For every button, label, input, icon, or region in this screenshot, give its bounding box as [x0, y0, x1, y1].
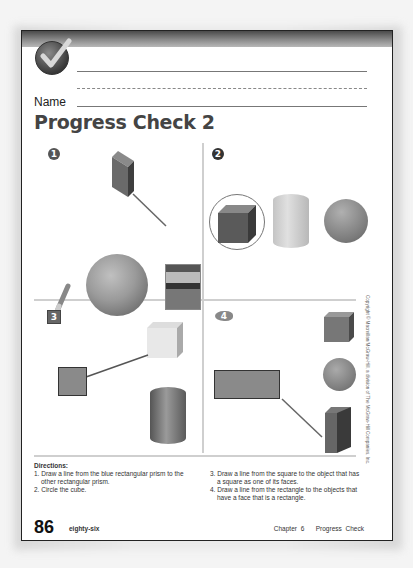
name-field[interactable]	[77, 106, 367, 107]
sphere-icon	[323, 358, 356, 391]
divider-vertical	[202, 143, 204, 453]
direction-2: 2. Circle the cube.	[34, 486, 184, 494]
direction-1b: other rectangular prism.	[34, 478, 184, 486]
direction-4a: 4. Draw a line from the rectangle to the…	[210, 486, 359, 494]
cube-icon	[218, 205, 256, 243]
footer-chapter: Chapter 6 Progress Check	[274, 525, 364, 532]
directions-col-1: 1. Draw a line from the blue rectangular…	[34, 470, 184, 494]
cube-icon	[324, 312, 354, 342]
cylinder-icon	[273, 194, 309, 248]
header-band	[22, 31, 392, 47]
write-line-top	[77, 71, 367, 72]
direction-4b: have a face that is a rectangle.	[210, 494, 359, 502]
cylinder-icon	[150, 387, 186, 444]
square-icon	[58, 367, 87, 396]
rectangular-prism-icon	[325, 407, 351, 453]
name-label: Name	[34, 95, 66, 109]
answer-line-1	[130, 191, 170, 231]
problem-1-badge: 1	[48, 148, 60, 160]
ball-icon	[86, 254, 148, 316]
crayon-icon	[52, 283, 74, 313]
page-number-words: eighty-six	[69, 525, 99, 532]
divider-bottom	[34, 455, 356, 457]
section-label: Progress Check	[316, 525, 364, 532]
problem-2-badge: 2	[212, 148, 224, 160]
problem-3-badge: 3	[47, 310, 61, 324]
crayon-box-icon	[165, 264, 201, 310]
answer-line-4	[280, 397, 324, 441]
page-title: Progress Check 2	[34, 111, 215, 133]
checkmark-icon	[35, 41, 69, 75]
direction-1a: 1. Draw a line from the blue rectangular…	[34, 470, 184, 478]
answer-line-3	[84, 351, 154, 381]
sphere-icon	[324, 199, 368, 243]
direction-3b: a square as one of its faces.	[210, 478, 359, 486]
direction-3a: 3. Draw a line from the square to the ob…	[210, 470, 359, 478]
directions-col-2: 3. Draw a line from the square to the ob…	[210, 470, 359, 502]
directions-heading: Directions:	[34, 462, 68, 469]
problem-4-badge: 4	[215, 311, 233, 321]
rectangle-icon	[214, 370, 280, 399]
write-line-dashed	[77, 88, 367, 89]
page-number: 86	[34, 517, 54, 538]
worksheet-page: Name Progress Check 2 1 2 3 4	[21, 30, 393, 541]
chapter-label: Chapter 6	[274, 525, 305, 532]
